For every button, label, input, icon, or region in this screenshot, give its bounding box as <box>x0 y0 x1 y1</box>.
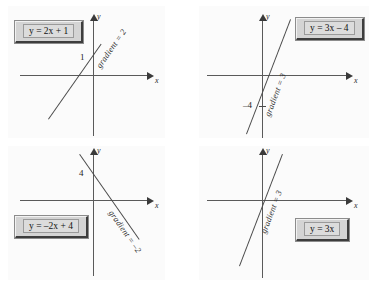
x-axis-arrow-icon <box>147 197 154 205</box>
y-axis-label: y <box>266 146 270 155</box>
x-axis-label: x <box>155 76 159 85</box>
y-axis-label: y <box>97 12 101 21</box>
equation-callout: y = 3x <box>296 219 349 241</box>
equation-text: y = 2x + 1 <box>23 24 74 38</box>
y-axis-label: y <box>266 12 270 21</box>
equation-callout: y = 2x + 1 <box>15 21 83 43</box>
graph-panel-bottom-left: x y 4 gradient = –2 y = –2x + 4 <box>8 146 165 280</box>
equation-callout: y = –2x + 4 <box>15 216 88 238</box>
graph-panel-bottom-right: x y gradient = 3 y = 3x <box>199 146 369 280</box>
x-axis-label: x <box>155 201 159 210</box>
y-intercept-label: 4 <box>79 168 84 178</box>
equation-text: y = –2x + 4 <box>23 219 79 233</box>
x-axis-label: x <box>354 76 358 85</box>
gradient-annotation: gradient = 2 <box>94 27 128 70</box>
y-intercept-label: –4 <box>243 100 252 110</box>
x-axis-arrow-icon <box>346 72 353 80</box>
x-axis-label: x <box>354 201 358 210</box>
x-axis-arrow-icon <box>346 197 353 205</box>
equation-callout: y = 3x – 4 <box>296 18 364 40</box>
graph-panel-top-right: x y –4 gradient = 3 y = 3x – 4 <box>199 6 369 138</box>
graph-panel-top-left: x y 1 gradient = 2 y = 2x + 1 <box>8 6 165 138</box>
y-intercept-label: 1 <box>80 52 85 62</box>
equation-text: y = 3x – 4 <box>304 21 355 35</box>
figure-canvas: x y 1 gradient = 2 y = 2x + 1 x y –4 gra… <box>0 0 383 288</box>
x-axis-arrow-icon <box>147 72 154 80</box>
y-axis <box>262 20 263 138</box>
y-axis <box>93 20 94 136</box>
x-axis <box>20 75 148 76</box>
equation-text: y = 3x <box>304 222 340 236</box>
plotted-line <box>79 154 139 240</box>
x-axis <box>20 200 148 201</box>
gradient-annotation: gradient = –2 <box>107 208 144 255</box>
y-axis-label: y <box>97 146 101 155</box>
